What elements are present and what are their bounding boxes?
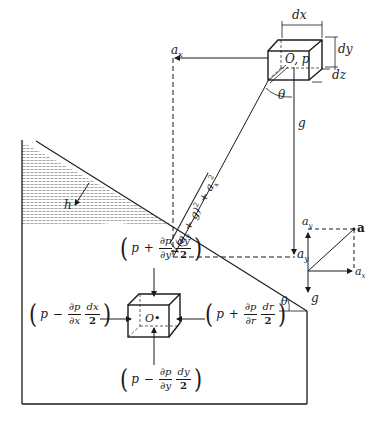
- paren-right: ): [103, 301, 111, 327]
- operator: −: [53, 307, 63, 321]
- ay-sub: y: [304, 254, 309, 263]
- origin-label-upper: O, p: [285, 53, 309, 65]
- left-force-expression: ( p − ∂p∂x dx2 ): [28, 301, 112, 327]
- a-vector: [308, 229, 354, 271]
- partial-fraction: ∂p∂y: [159, 367, 173, 391]
- g-label-upper: g: [298, 117, 306, 129]
- paren-left: (: [120, 366, 128, 392]
- pressure-symbol: p: [131, 241, 139, 255]
- numerator: ∂p: [68, 302, 82, 315]
- acceleration-vector-inset: [308, 228, 356, 293]
- partial-fraction: ∂p∂x: [68, 302, 82, 326]
- ay-label-inset: ay: [302, 216, 313, 230]
- paren-left: (: [29, 301, 37, 327]
- pressure-symbol: p: [131, 372, 139, 386]
- numerator: ∂p: [159, 236, 173, 249]
- h-label: h: [64, 199, 72, 211]
- ay-sub: y: [309, 222, 313, 230]
- ay-label-upper: ay: [297, 248, 309, 263]
- a-label-inset: a: [357, 222, 365, 234]
- numerator: dx: [85, 302, 99, 315]
- operator: +: [144, 241, 154, 255]
- denominator: ∂r: [246, 315, 256, 327]
- numerator: dy: [176, 367, 190, 380]
- ax-label-inset: ax: [355, 266, 366, 280]
- partial-fraction: ∂p∂r: [244, 302, 258, 326]
- bottom-force-expression: ( p − ∂p∂y dy2 ): [119, 366, 203, 392]
- dz-label: dz: [332, 69, 346, 81]
- ax-sub: x: [362, 272, 366, 280]
- paren-right: ): [278, 301, 286, 327]
- theta-arc-lower: [288, 300, 289, 311]
- paren-left: (: [205, 301, 213, 327]
- ax-label-upper: ax: [171, 44, 183, 59]
- paren-right: ): [194, 235, 202, 261]
- half-fraction: dy2: [176, 367, 190, 391]
- top-force-expression: ( p + ∂p∂y dy2 ): [119, 235, 203, 261]
- partial-fraction: ∂p∂y: [159, 236, 173, 260]
- denominator: 2: [180, 380, 187, 392]
- denominator: 2: [89, 315, 96, 327]
- denominator: ∂y: [160, 380, 171, 392]
- right-force-expression: ( p + ∂p∂r dr2 ): [204, 301, 287, 327]
- numerator: dy: [176, 236, 190, 249]
- paren-left: (: [120, 235, 128, 261]
- numerator: dr: [261, 302, 274, 315]
- operator: +: [229, 307, 239, 321]
- ax-sub: x: [178, 50, 183, 59]
- dx-label: dx: [292, 9, 306, 21]
- theta-label-upper: θ: [278, 89, 285, 101]
- pressure-symbol: p: [216, 307, 224, 321]
- half-fraction: dy2: [176, 236, 190, 260]
- tank-figure: [22, 140, 307, 404]
- denominator: 2: [265, 315, 272, 327]
- origin-label-lower: O•: [145, 313, 161, 324]
- free-surface-line: [36, 141, 307, 311]
- g-label-inset: g: [311, 292, 319, 304]
- pressure-symbol: p: [40, 307, 48, 321]
- half-fraction: dx2: [85, 302, 99, 326]
- denominator: 2: [180, 249, 187, 261]
- numerator: ∂p: [159, 367, 173, 380]
- denominator: ∂x: [69, 315, 80, 327]
- paren-right: ): [194, 366, 202, 392]
- operator: −: [144, 372, 154, 386]
- denominator: ∂y: [160, 249, 171, 261]
- dy-label: dy: [338, 43, 352, 55]
- half-fraction: dr2: [261, 302, 274, 326]
- numerator: ∂p: [244, 302, 258, 315]
